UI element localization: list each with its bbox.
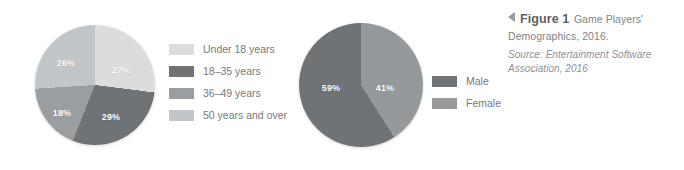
legend-item-36-49-years[interactable]: 36–49 years	[169, 82, 287, 104]
legend-swatch-female	[432, 98, 457, 109]
pie-slice-label-male: 59%	[322, 84, 341, 93]
gender-legend: Male Female	[432, 70, 501, 114]
caption-headline: Figure 1 Game Players' Demographics, 201…	[508, 10, 684, 44]
legend-label-18-35-years: 18–35 years	[203, 66, 261, 77]
legend-swatch-under-18-years	[169, 44, 194, 55]
legend-item-50-years-and-over[interactable]: 50 years and over	[169, 104, 287, 126]
legend-swatch-male	[432, 76, 457, 87]
legend-swatch-36-49-years	[169, 88, 194, 99]
age-demographics-chart: 27% 29% 18% 26%	[0, 0, 170, 170]
gender-demographics-chart: 59% 41%	[290, 0, 430, 170]
figure-container: 27% 29% 18% 26% Under 18 years 18–35 yea…	[0, 0, 684, 170]
legend-label-50-years-and-over: 50 years and over	[203, 110, 287, 121]
legend-label-under-18-years: Under 18 years	[203, 44, 275, 55]
figure-number: Figure 1	[520, 12, 569, 26]
legend-item-under-18-years[interactable]: Under 18 years	[169, 38, 287, 60]
age-pie-graphic	[35, 25, 155, 145]
gender-pie-graphic	[299, 23, 423, 147]
legend-item-18-35-years[interactable]: 18–35 years	[169, 60, 287, 82]
figure-source: Source: Entertainment Software Associati…	[508, 48, 684, 75]
legend-item-male[interactable]: Male	[432, 70, 501, 92]
pie-slice-label-18-35: 29%	[102, 113, 121, 122]
legend-swatch-18-35-years	[169, 66, 194, 77]
legend-label-male: Male	[466, 76, 489, 87]
triangle-left-icon	[508, 12, 515, 22]
pie-slice-label-36-49: 18%	[53, 109, 72, 118]
legend-item-female[interactable]: Female	[432, 92, 501, 114]
age-legend: Under 18 years 18–35 years 36–49 years 5…	[169, 38, 287, 126]
legend-label-36-49-years: 36–49 years	[203, 88, 261, 99]
legend-label-female: Female	[466, 98, 501, 109]
figure-caption: Figure 1 Game Players' Demographics, 201…	[508, 10, 684, 75]
pie-slice-label-female: 41%	[376, 84, 395, 93]
pie-slice-label-50-over: 26%	[57, 59, 76, 68]
legend-swatch-50-years-and-over	[169, 110, 194, 121]
pie-slice-label-under18: 27%	[112, 66, 131, 75]
